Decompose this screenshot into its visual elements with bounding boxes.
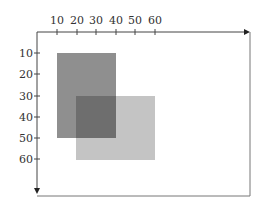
x-axis-arrow-icon <box>244 29 250 35</box>
x-tick-label: 20 <box>70 15 84 26</box>
y-axis-arrow-icon <box>34 188 40 194</box>
x-tick-label: 60 <box>148 15 162 26</box>
y-tick-label: 50 <box>19 133 33 144</box>
y-tick-label: 30 <box>19 91 33 102</box>
y-tick-label: 60 <box>19 154 33 165</box>
x-tick-label: 50 <box>128 15 142 26</box>
x-tick-label: 40 <box>109 15 123 26</box>
rectangle-overlap <box>76 96 116 138</box>
y-tick-label: 40 <box>19 112 33 123</box>
y-tick-label: 20 <box>19 69 33 80</box>
y-tick-label: 10 <box>19 48 33 59</box>
diagram-canvas <box>0 0 266 212</box>
x-tick-label: 30 <box>89 15 103 26</box>
x-tick-label: 10 <box>50 15 64 26</box>
